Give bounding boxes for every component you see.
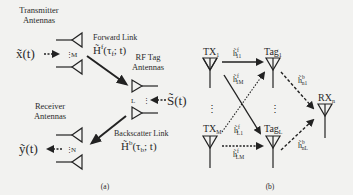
panel-a: Transmitter Antennas x̃(t) ⋮ M Forward L… <box>16 5 187 191</box>
tag-ellipsis: ⋮ <box>143 97 150 105</box>
link-h11-label: h̃f11 <box>233 47 241 59</box>
tx1-label: TX1 <box>203 46 219 58</box>
tag-count-label: L <box>131 97 135 105</box>
backscatter-link-symbol: H̃b(τb; t) <box>121 139 157 154</box>
tag-signal-label: S̃(t) <box>167 93 187 108</box>
tagL-label: TagL <box>264 123 283 135</box>
link-hnL-arrow <box>281 120 313 150</box>
tag-antenna-bottom-icon <box>132 107 158 119</box>
link-hL1-label: h̃fL1 <box>234 124 243 136</box>
tx-signal-label: x̃(t) <box>16 46 35 61</box>
transmitter-antenna-bottom-icon <box>56 60 82 74</box>
backscatter-system-diagram: Transmitter Antennas x̃(t) ⋮ M Forward L… <box>0 0 353 195</box>
receiver-subtitle: Antennas <box>34 111 66 121</box>
link-h1M-label: h̃f1M <box>233 73 244 85</box>
txM-antenna-icon <box>203 136 217 168</box>
rx-signal-label: ỹ(t) <box>19 141 38 156</box>
panel-a-caption: (a) <box>101 182 110 191</box>
link-hn1-label: h̃bn1 <box>298 74 308 86</box>
panel-b: TX1 TXM ⋮ Tag1 TagL ⋮ RXn <box>203 46 335 191</box>
transmitter-subtitle: Antennas <box>23 15 55 25</box>
receiver-title: Receiver <box>35 101 65 111</box>
tag-subtitle: Antennas <box>132 62 164 72</box>
tx-vertical-ellipsis: ⋮ <box>207 103 217 114</box>
transmitter-title: Transmitter <box>19 5 59 15</box>
tx1-antenna-icon <box>203 58 217 88</box>
tagL-antenna-icon <box>266 136 280 168</box>
receiver-antenna-bottom-icon <box>56 155 82 169</box>
rx-antenna-icon <box>318 104 332 138</box>
tag1-antenna-icon <box>266 58 280 88</box>
forward-link-arrow <box>87 56 126 84</box>
tag-antenna-top-icon <box>132 80 158 92</box>
backscatter-link-title: Backscatter Link <box>114 129 168 138</box>
rx-label: RXn <box>318 92 335 104</box>
link-hn1-arrow <box>281 72 313 108</box>
link-hnL-label: h̃bnL <box>298 139 309 151</box>
link-hLM-label: h̃fLM <box>233 148 244 160</box>
transmitter-antenna-top-icon <box>56 33 82 47</box>
panel-b-caption: (b) <box>266 182 275 191</box>
tag-vertical-ellipsis: ⋮ <box>270 103 280 114</box>
forward-link-symbol: H̃f(τf; t) <box>93 43 127 58</box>
tag-title: RF Tag <box>136 52 162 62</box>
receiver-antenna-top-icon <box>56 128 82 142</box>
txM-label: TXM <box>203 123 222 135</box>
tag1-label: Tag1 <box>264 46 282 58</box>
rx-count-label: N <box>71 146 76 154</box>
tx-count-label: M <box>71 51 78 59</box>
forward-link-title: Forward Link <box>93 33 137 42</box>
